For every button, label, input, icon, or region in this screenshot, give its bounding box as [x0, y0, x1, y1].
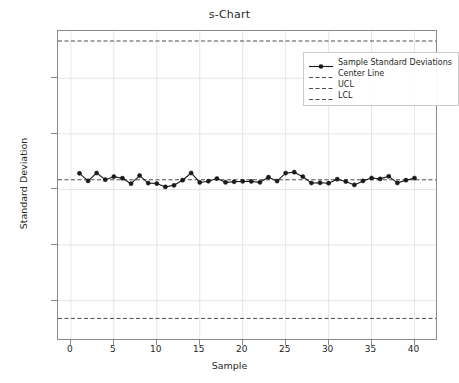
x-axis-tick-mark — [156, 340, 157, 345]
y-axis-tick-mark — [51, 77, 57, 78]
data-point — [284, 171, 288, 175]
data-point — [309, 181, 313, 185]
data-point — [266, 175, 270, 179]
data-point — [103, 178, 107, 182]
data-point — [215, 176, 219, 180]
data-point — [146, 181, 150, 185]
x-axis-label: Sample — [0, 360, 459, 371]
legend-label: LCL — [338, 90, 353, 101]
data-point — [172, 183, 176, 187]
chart-legend: Sample Standard DeviationsCenter LineUCL… — [303, 52, 459, 106]
data-point — [206, 179, 210, 183]
data-point — [120, 176, 124, 180]
legend-label: Center Line — [338, 68, 384, 79]
legend-item: Center Line — [308, 68, 452, 79]
s-chart-figure: s-Chart Standard Deviation Sample −0.10−… — [0, 0, 459, 383]
data-point — [77, 171, 81, 175]
y-axis-tick-mark — [51, 244, 57, 245]
data-point — [335, 177, 339, 181]
x-axis-tick-label: 35 — [351, 344, 391, 354]
data-point — [163, 185, 167, 189]
legend-label: Sample Standard Deviations — [338, 57, 452, 68]
legend-key-icon — [308, 79, 334, 90]
y-axis-tick-mark — [51, 300, 57, 301]
y-axis-tick-mark — [51, 133, 57, 134]
data-point — [412, 176, 416, 180]
legend-item: UCL — [308, 79, 452, 90]
data-point — [241, 179, 245, 183]
data-point — [198, 180, 202, 184]
y-axis-label: Standard Deviation — [18, 114, 29, 254]
data-point — [232, 180, 236, 184]
data-point — [189, 171, 193, 175]
data-point — [129, 182, 133, 186]
data-point — [361, 179, 365, 183]
x-axis-tick-label: 30 — [308, 344, 348, 354]
x-axis-tick-mark — [414, 340, 415, 345]
data-point — [86, 179, 90, 183]
data-point — [327, 181, 331, 185]
x-axis-tick-mark — [371, 340, 372, 345]
chart-title: s-Chart — [0, 8, 459, 21]
data-point — [369, 176, 373, 180]
data-point — [387, 174, 391, 178]
data-point — [378, 177, 382, 181]
legend-key-icon — [308, 68, 334, 79]
x-axis-tick-mark — [285, 340, 286, 345]
data-point — [138, 173, 142, 177]
x-axis-tick-label: 20 — [222, 344, 262, 354]
data-point — [180, 178, 184, 182]
data-point — [292, 170, 296, 174]
legend-item: LCL — [308, 90, 452, 101]
x-axis-tick-mark — [328, 340, 329, 345]
legend-label: UCL — [338, 79, 354, 90]
legend-key-icon — [308, 57, 334, 68]
x-axis-tick-label: 10 — [136, 344, 176, 354]
data-point — [258, 180, 262, 184]
data-point — [395, 181, 399, 185]
legend-item: Sample Standard Deviations — [308, 57, 452, 68]
legend-key-icon — [308, 90, 334, 101]
data-point — [344, 179, 348, 183]
data-point — [318, 181, 322, 185]
data-point — [223, 180, 227, 184]
x-axis-tick-mark — [113, 340, 114, 345]
data-point — [404, 178, 408, 182]
data-point — [275, 179, 279, 183]
y-axis-tick-mark — [51, 188, 57, 189]
x-axis-tick-label: 25 — [265, 344, 305, 354]
data-point — [95, 171, 99, 175]
data-point — [112, 175, 116, 179]
data-point — [155, 181, 159, 185]
x-axis-tick-mark — [242, 340, 243, 345]
data-point — [249, 179, 253, 183]
x-axis-tick-label: 40 — [394, 344, 434, 354]
x-axis-tick-mark — [199, 340, 200, 345]
data-point — [301, 175, 305, 179]
x-axis-tick-label: 5 — [93, 344, 133, 354]
x-axis-tick-label: 0 — [50, 344, 90, 354]
x-axis-tick-mark — [70, 340, 71, 345]
x-axis-tick-label: 15 — [179, 344, 219, 354]
data-point — [352, 183, 356, 187]
